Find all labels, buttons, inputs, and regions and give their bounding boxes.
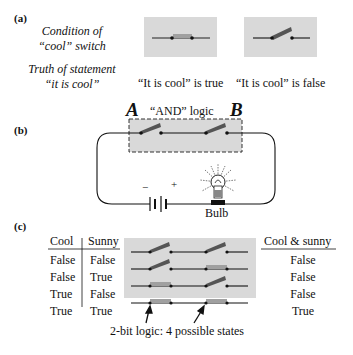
switch-contact — [270, 36, 274, 40]
battery-plus-label: + — [171, 178, 177, 190]
and-circuit — [97, 119, 275, 212]
closed-switch — [152, 34, 210, 40]
switch-contact — [290, 36, 294, 40]
battery-icon — [150, 196, 166, 212]
result-column: False False False True — [286, 252, 320, 320]
table-cell: True — [286, 303, 320, 320]
table-cell: True — [50, 286, 75, 303]
table-cell: True — [50, 303, 75, 320]
open-switch — [253, 27, 310, 40]
bulb-icon — [200, 164, 236, 205]
state-row-4 — [131, 299, 248, 305]
panel-b-label: (b) — [14, 124, 27, 136]
table-cell: False — [90, 252, 115, 269]
bulb-label: Bulb — [205, 206, 228, 221]
switch-lever-closed — [173, 34, 192, 38]
switch-a-label: A — [126, 99, 139, 121]
table-cell: True — [90, 269, 115, 286]
table-cell: False — [50, 269, 75, 286]
table-cell: True — [90, 303, 115, 320]
states-caption: 2-bit logic: 4 possible states — [110, 324, 244, 339]
table-cell: False — [286, 252, 320, 269]
table-cell: False — [286, 286, 320, 303]
panel-c-label: (c) — [14, 220, 26, 232]
sunny-column: False True False True — [90, 252, 115, 320]
battery-minus-label: − — [142, 181, 148, 193]
and-logic-label: “AND” logic — [150, 104, 214, 119]
switch-contact — [190, 36, 194, 40]
states-box — [124, 238, 256, 298]
sunny-header: Sunny — [88, 234, 119, 249]
switch-lever-open — [272, 27, 292, 40]
result-header: Cool & sunny — [264, 234, 331, 249]
cool-header: Cool — [50, 234, 73, 249]
table-cell: False — [90, 286, 115, 303]
switch-contact — [170, 36, 174, 40]
switch-b-label: B — [230, 99, 243, 121]
arrow-icon — [146, 306, 204, 323]
table-cell: False — [50, 252, 75, 269]
table-cell: False — [286, 269, 320, 286]
cool-column: False False True True — [50, 252, 75, 320]
